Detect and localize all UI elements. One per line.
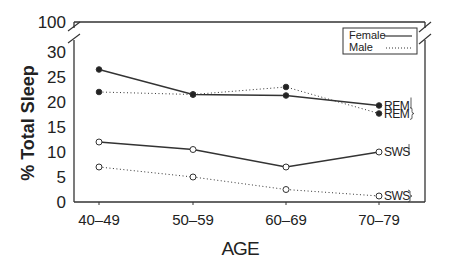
y-tick-label: 10: [47, 143, 66, 162]
series-end-label: REM: [384, 107, 410, 121]
x-tick-label: 50–59: [172, 211, 214, 228]
open-circle-marker: [96, 139, 102, 145]
open-circle-marker: [376, 193, 382, 199]
open-circle-marker: [283, 164, 289, 170]
y-tick-label: 30: [47, 43, 66, 62]
y-tick-label: 0: [57, 193, 66, 212]
y-tick-label: 100: [38, 13, 66, 32]
x-tick-label: 40–49: [78, 211, 120, 228]
series-line: [99, 70, 379, 106]
filled-circle-marker: [283, 84, 289, 90]
y-tick-label: 20: [47, 93, 66, 112]
filled-circle-marker: [96, 67, 102, 73]
series-male-rem: REM: [96, 84, 414, 120]
open-circle-marker: [190, 174, 196, 180]
y-axis-ticks: 051015202530100: [38, 13, 66, 212]
brace-mark: [410, 108, 414, 120]
x-axis-ticks: 40–4950–5960–6970–79: [78, 202, 400, 228]
filled-circle-marker: [96, 89, 102, 95]
series-line: [99, 167, 379, 196]
x-tick-label: 60–69: [265, 211, 307, 228]
y-tick-label: 25: [47, 68, 66, 87]
series-line: [99, 87, 379, 114]
filled-circle-marker: [376, 111, 382, 117]
series-layer: REMREMSWSSWS: [96, 67, 414, 203]
open-circle-marker: [96, 164, 102, 170]
open-circle-marker: [376, 149, 382, 155]
series-female-sws: SWS: [96, 139, 410, 170]
series-line: [99, 142, 379, 167]
filled-circle-marker: [190, 92, 196, 98]
open-circle-marker: [190, 147, 196, 153]
y-axis-label: % Total Sleep: [18, 65, 38, 181]
filled-circle-marker: [376, 103, 382, 109]
y-tick-label: 5: [57, 168, 66, 187]
open-circle-marker: [283, 187, 289, 193]
y-tick-label: 15: [47, 118, 66, 137]
legend-label-female: Female: [349, 29, 386, 41]
legend-label-male: Male: [349, 41, 373, 53]
filled-circle-marker: [283, 93, 289, 99]
x-axis-label: AGE: [221, 238, 258, 259]
series-end-label: SWS: [384, 189, 410, 203]
series-end-label: SWS: [384, 145, 410, 159]
x-tick-label: 70–79: [358, 211, 400, 228]
legend: Female Male: [343, 28, 417, 54]
line-chart: 051015202530100 40–4950–5960–6970–79 REM…: [0, 0, 451, 268]
series-male-sws: SWS: [96, 164, 412, 203]
